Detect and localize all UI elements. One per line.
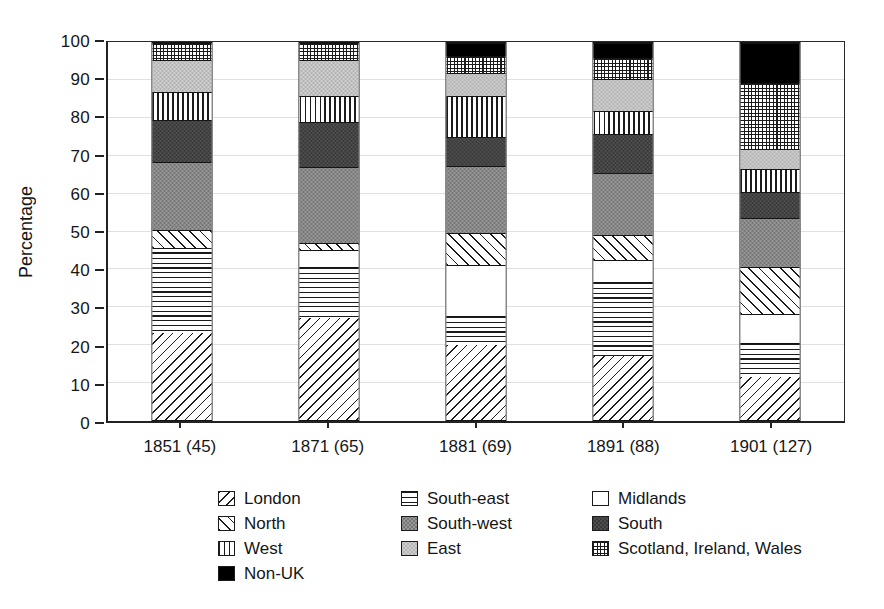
x-tick-mark-1851-45: [179, 423, 181, 428]
segment-scotland-ireland-wales-1901-127: [741, 83, 800, 149]
segment-west-1901-127: [741, 169, 800, 192]
legend-swatch-south-west-icon: [401, 516, 418, 531]
legend-swatch-midlands-icon: [592, 491, 609, 506]
x-tick-mark-1881-69: [475, 423, 477, 428]
legend-item-south: South: [592, 511, 802, 536]
y-tick-mark-30: [95, 307, 104, 309]
y-tick-label-100: 100: [61, 33, 90, 50]
y-tick-mark-10: [95, 384, 104, 386]
x-axis-label-1881-69: 1881 (69): [439, 437, 512, 457]
legend-swatch-east-icon: [401, 541, 418, 556]
y-tick-mark-100: [95, 40, 104, 42]
x-tick-mark-1871-65: [327, 423, 329, 428]
segment-north-1851-45: [152, 230, 211, 249]
legend-swatch-scotland-ireland-wales-icon: [592, 541, 609, 556]
y-tick-mark-20: [95, 346, 104, 348]
segment-south-1851-45: [152, 120, 211, 161]
x-axis-ticks: [106, 423, 845, 429]
legend-label-london: London: [244, 489, 301, 509]
legend-label-west: West: [244, 539, 282, 559]
y-tick-mark-90: [95, 78, 104, 80]
segment-south-1871-65: [299, 122, 358, 167]
bar-slot-1871-65: [255, 42, 402, 421]
segment-east-1881-69: [446, 73, 505, 96]
legend-swatch-south-east-icon: [401, 491, 418, 506]
bars-layer: [108, 42, 844, 421]
y-tick-label-70: 70: [70, 147, 90, 164]
segment-south-west-1891-88: [594, 173, 653, 235]
segment-scotland-ireland-wales-1851-45: [152, 43, 211, 60]
bar-slot-1901-127: [697, 42, 844, 421]
y-axis: 0102030405060708090100: [0, 41, 106, 423]
legend-item-north: North: [218, 511, 401, 536]
legend-swatch-london-icon: [218, 491, 235, 506]
segment-north-1871-65: [299, 243, 358, 251]
segment-east-1891-88: [594, 79, 653, 111]
x-axis-label-1851-45: 1851 (45): [144, 437, 217, 457]
legend-item-south-east: South-east: [401, 486, 592, 511]
y-tick-mark-0: [95, 422, 104, 424]
legend-swatch-non-uk-icon: [218, 566, 235, 581]
bar-1891-88: [593, 42, 654, 421]
y-tick-label-20: 20: [70, 338, 90, 355]
bar-1851-45: [151, 42, 212, 421]
legend-item-east: East: [401, 536, 592, 561]
segment-south-west-1901-127: [741, 218, 800, 267]
segment-london-1891-88: [594, 356, 653, 420]
segment-non-uk-1891-88: [594, 43, 653, 58]
segment-scotland-ireland-wales-1881-69: [446, 56, 505, 73]
segment-west-1891-88: [594, 111, 653, 134]
segment-midlands-1891-88: [594, 260, 653, 283]
segment-south-1881-69: [446, 137, 505, 165]
segment-south-east-1891-88: [594, 282, 653, 356]
y-tick-label-0: 0: [80, 415, 90, 432]
y-tick-label-80: 80: [70, 109, 90, 126]
segment-midlands-1901-127: [741, 314, 800, 342]
y-tick-mark-80: [95, 116, 104, 118]
legend-label-north: North: [244, 514, 286, 534]
legend-item-west: West: [218, 536, 401, 561]
legend-label-south-east: South-east: [427, 489, 509, 509]
plot-area: [106, 41, 845, 423]
segment-south-west-1851-45: [152, 162, 211, 230]
y-tick-label-40: 40: [70, 262, 90, 279]
legend-label-non-uk: Non-UK: [244, 564, 304, 584]
segment-non-uk-1881-69: [446, 43, 505, 56]
x-tick-mark-1891-88: [622, 423, 624, 428]
segment-south-east-1851-45: [152, 252, 211, 333]
legend-label-south-west: South-west: [427, 514, 512, 534]
x-axis-label-1871-65: 1871 (65): [291, 437, 364, 457]
segment-north-1901-127: [741, 267, 800, 314]
segment-non-uk-1901-127: [741, 43, 800, 83]
y-tick-label-60: 60: [70, 185, 90, 202]
legend-label-midlands: Midlands: [618, 489, 686, 509]
segment-london-1881-69: [446, 345, 505, 420]
segment-scotland-ireland-wales-1891-88: [594, 58, 653, 79]
legend-label-east: East: [427, 539, 461, 559]
y-tick-label-90: 90: [70, 71, 90, 88]
x-axis-label-1891-88: 1891 (88): [587, 437, 660, 457]
segment-south-east-1901-127: [741, 343, 800, 377]
legend-item-non-uk: Non-UK: [218, 561, 401, 586]
bar-slot-1891-88: [550, 42, 697, 421]
segment-west-1871-65: [299, 96, 358, 122]
legend-label-south: South: [618, 514, 662, 534]
x-axis-labels: 1851 (45)1871 (65)1881 (69)1891 (88)1901…: [106, 437, 845, 459]
segment-east-1871-65: [299, 60, 358, 96]
segment-scotland-ireland-wales-1871-65: [299, 43, 358, 60]
segment-east-1851-45: [152, 60, 211, 92]
legend-item-midlands: Midlands: [592, 486, 802, 511]
y-tick-label-50: 50: [70, 224, 90, 241]
stacked-bar-chart-figure: Percentage 0102030405060708090100 1851 (…: [0, 0, 884, 609]
legend-item-scotland-ireland-wales: Scotland, Ireland, Wales: [592, 536, 802, 561]
segment-midlands-1881-69: [446, 265, 505, 316]
chart-legend: LondonSouth-eastMidlandsNorthSouth-westS…: [218, 486, 802, 586]
y-tick-mark-60: [95, 193, 104, 195]
segment-west-1881-69: [446, 96, 505, 137]
legend-swatch-south-icon: [592, 516, 609, 531]
segment-east-1901-127: [741, 149, 800, 170]
legend-item-london: London: [218, 486, 401, 511]
y-tick-mark-40: [95, 269, 104, 271]
legend-item-south-west: South-west: [401, 511, 592, 536]
y-tick-label-10: 10: [70, 376, 90, 393]
